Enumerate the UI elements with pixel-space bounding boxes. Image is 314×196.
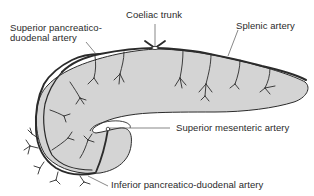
label-inferior-pd: Inferior pancreatico-duodenal artery: [111, 180, 263, 191]
label-superior-mesenteric: Superior mesenteric artery: [176, 123, 289, 134]
label-coeliac-trunk: Coeliac trunk: [126, 10, 182, 21]
pancreas-artery-diagram: Coeliac trunk Splenic artery Superior pa…: [0, 0, 314, 196]
coeliac-trunk-origin: [152, 46, 158, 49]
leader-superior-pd: [86, 42, 96, 54]
label-splenic-artery: Splenic artery: [236, 21, 295, 32]
leader-splenic-artery: [228, 30, 238, 56]
label-superior-pd-line2: duodenal artery: [10, 33, 77, 44]
leader-inferior-pd: [88, 176, 108, 186]
